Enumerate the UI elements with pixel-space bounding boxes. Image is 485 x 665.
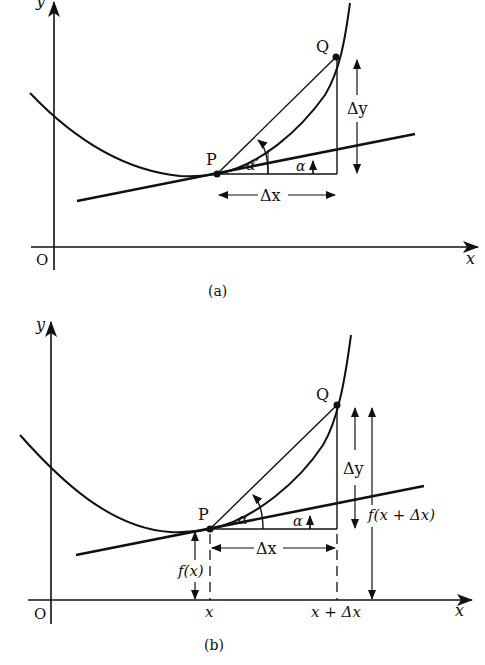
x-axis-label: x — [466, 249, 475, 268]
point-p-label: P — [206, 150, 217, 169]
x-axis-label: x — [455, 601, 464, 620]
origin-label: O — [36, 251, 48, 269]
delta-x-label: Δx — [256, 539, 277, 558]
y-axis-label: y — [35, 0, 46, 10]
tick-x-dx-label: x + Δx — [311, 603, 361, 621]
panel-a: y x O P Q α′ α Δy Δx (a) — [30, 0, 478, 299]
point-q-label: Q — [316, 385, 329, 404]
function-curve — [20, 335, 351, 532]
origin-label: O — [34, 605, 46, 623]
alpha-prime-label: α′ — [246, 157, 259, 173]
alpha-label: α — [296, 158, 306, 174]
point-q-label: Q — [316, 37, 329, 56]
derivative-diagram: y x O P Q α′ α Δy Δx (a) — [0, 0, 485, 665]
alpha-label: α — [293, 513, 303, 529]
panel-a-caption: (a) — [208, 283, 227, 299]
alpha-prime-label: α′ — [238, 511, 251, 527]
secant-line — [217, 57, 336, 174]
fx-label: f(x) — [177, 562, 204, 580]
secant-line — [210, 405, 337, 529]
point-q — [334, 402, 341, 409]
panel-b: y x O P Q α′ α Δy f(x + Δx) — [20, 315, 472, 653]
delta-x-label: Δx — [260, 186, 281, 205]
point-p-label: P — [198, 505, 209, 524]
fx-dx-label: f(x + Δx) — [367, 506, 435, 524]
point-p — [214, 171, 221, 178]
y-axis-label: y — [35, 315, 46, 334]
point-q — [333, 54, 340, 61]
tick-x-label: x — [205, 603, 214, 621]
delta-y-label: Δy — [343, 459, 364, 478]
delta-y-label: Δy — [347, 99, 368, 118]
panel-b-caption: (b) — [204, 637, 224, 653]
point-p — [207, 526, 214, 533]
